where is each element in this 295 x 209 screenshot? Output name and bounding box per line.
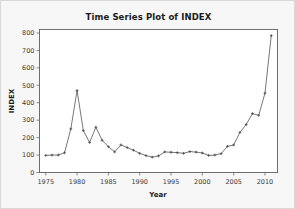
y-tick-label: 100: [22, 151, 34, 159]
chart-figure: Time Series Plot of INDEX 01002003004005…: [0, 0, 295, 209]
y-tick-label: 400: [22, 99, 34, 107]
y-tick-label: 0: [30, 169, 34, 177]
y-tick-label: 500: [22, 82, 34, 90]
y-tick-label: 700: [22, 47, 34, 55]
x-axis-ticks: 19751980198519901995200020052010: [37, 173, 273, 186]
x-axis-label: Year: [148, 191, 167, 199]
y-tick-label: 600: [22, 64, 34, 72]
y-axis-ticks: 0100200300400500600700800: [22, 29, 39, 177]
y-tick-label: 800: [22, 29, 34, 37]
y-axis-label: INDEX: [8, 88, 16, 113]
time-series-plot: 0100200300400500600700800 19751980198519…: [1, 1, 295, 209]
x-tick-label: 1985: [100, 178, 117, 186]
x-tick-label: 1990: [131, 178, 148, 186]
x-tick-label: 1975: [37, 178, 54, 186]
x-tick-label: 1995: [163, 178, 180, 186]
x-tick-label: 2010: [257, 178, 274, 186]
y-tick-label: 300: [22, 116, 34, 124]
x-tick-label: 2000: [194, 178, 211, 186]
y-tick-label: 200: [22, 134, 34, 142]
x-tick-label: 2005: [225, 178, 242, 186]
x-tick-label: 1980: [69, 178, 86, 186]
